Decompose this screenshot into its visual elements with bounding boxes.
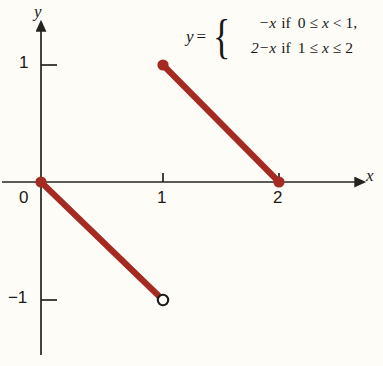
formula-equals-sign: = (197, 27, 211, 47)
open-endpoint-1-neg1 (158, 295, 168, 305)
case-variable: x (322, 14, 329, 32)
curve-segment-neg-x (41, 182, 163, 300)
formula-case-row: −x if 0 ≤ x < 1, (234, 14, 357, 34)
case-if-word: if (276, 14, 297, 32)
x-tick-label-1: 1 (157, 188, 166, 208)
origin-label: 0 (19, 188, 28, 208)
piecewise-function-figure: x y 0 1 2 1 −1 y = { −x if 0 ≤ x < 1, 2−… (0, 0, 383, 366)
y-tick-label-1: 1 (19, 53, 28, 73)
formula-case-row: 2−x if 1 ≤ x ≤ 2 (234, 39, 357, 59)
formula-brace: { (213, 17, 231, 57)
case-condition-left: 1 (298, 39, 306, 57)
case-relation-right: < (329, 14, 346, 32)
closed-endpoint-origin (35, 176, 46, 187)
formula-lhs: y (186, 27, 197, 47)
case-condition-right: 2 (345, 39, 353, 57)
closed-endpoint-2-0 (273, 176, 284, 187)
x-tick-label-2: 2 (273, 188, 282, 208)
case-condition-right: 1, (346, 14, 358, 32)
case-if-word: if (276, 39, 297, 57)
y-axis-label: y (34, 2, 42, 22)
case-relation-left: ≤ (305, 39, 322, 57)
case-relation-left: ≤ (305, 14, 322, 32)
y-tick-label-neg-1: −1 (8, 288, 27, 308)
curve-segment-two-minus-x (163, 65, 279, 182)
case-expression: −x (234, 14, 276, 32)
case-relation-right: ≤ (329, 39, 346, 57)
piecewise-formula: y = { −x if 0 ≤ x < 1, 2−x if 1 ≤ x ≤ 2 (186, 14, 357, 59)
case-variable: x (322, 39, 329, 57)
formula-cases: −x if 0 ≤ x < 1, 2−x if 1 ≤ x ≤ 2 (234, 14, 357, 59)
case-condition-left: 0 (298, 14, 306, 32)
case-expression: 2−x (234, 39, 276, 57)
closed-endpoint-1-1 (157, 59, 168, 70)
x-axis-label: x (366, 166, 374, 186)
